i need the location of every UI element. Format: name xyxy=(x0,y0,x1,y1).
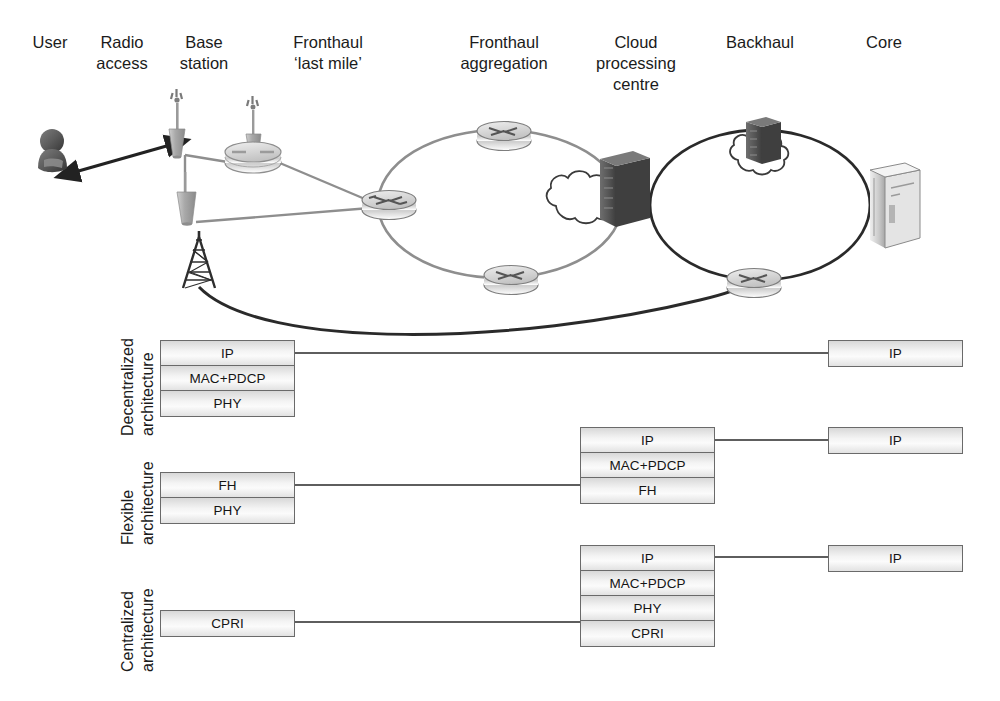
stack-decentralized-base-station: IP MAC+PDCP PHY xyxy=(160,340,295,417)
stack-layer: IP xyxy=(581,428,714,453)
stack-layer: PHY xyxy=(581,596,714,621)
stack-layer: CPRI xyxy=(581,621,714,646)
stack-centralized-centre: IP MAC+PDCP PHY CPRI xyxy=(580,545,715,647)
stack-layer: IP xyxy=(581,546,714,571)
stack-layer: IP xyxy=(161,341,294,366)
stack-layer: FH xyxy=(581,478,714,503)
stack-flexible-core: IP xyxy=(828,427,963,454)
stack-layer: MAC+PDCP xyxy=(581,571,714,596)
stack-layer: MAC+PDCP xyxy=(581,453,714,478)
stack-layer: IP xyxy=(829,341,962,366)
diagram-canvas: User Radio access Base station Fronthaul… xyxy=(0,0,1000,701)
stack-flexible-centre: IP MAC+PDCP FH xyxy=(580,427,715,504)
stack-centralized-core: IP xyxy=(828,545,963,572)
stack-layer: MAC+PDCP xyxy=(161,366,294,391)
stack-layer: IP xyxy=(829,546,962,571)
stack-centralized-base-station: CPRI xyxy=(160,610,295,637)
stack-layer: PHY xyxy=(161,498,294,523)
stack-layer: CPRI xyxy=(161,611,294,636)
stack-layer: IP xyxy=(829,428,962,453)
stack-decentralized-core: IP xyxy=(828,340,963,367)
stack-layer: PHY xyxy=(161,391,294,416)
stack-flexible-base-station: FH PHY xyxy=(160,472,295,524)
stack-layer: FH xyxy=(161,473,294,498)
